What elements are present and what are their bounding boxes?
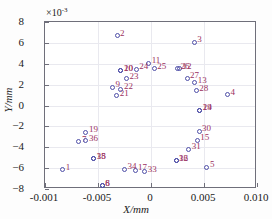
y-axis-tick-label: −6 bbox=[0, 162, 24, 173]
data-point bbox=[110, 85, 115, 90]
x-axis-tick bbox=[257, 183, 258, 187]
data-point-label: 31 bbox=[192, 142, 201, 151]
data-point bbox=[114, 93, 119, 98]
y-axis-tick-label: 4 bbox=[0, 58, 24, 69]
data-point-label: 30 bbox=[202, 124, 211, 133]
data-point bbox=[225, 92, 230, 97]
data-point bbox=[185, 76, 190, 81]
y-axis-exponent: ×10-3 bbox=[46, 5, 67, 18]
data-point-label: 25 bbox=[157, 62, 166, 71]
data-point-label: 23 bbox=[130, 72, 139, 81]
data-point bbox=[192, 40, 197, 45]
data-point-label: 22 bbox=[124, 82, 133, 91]
data-point-label: 35 bbox=[97, 152, 106, 161]
data-point-label: 29 bbox=[203, 103, 212, 112]
y-axis-tick-label: −8 bbox=[0, 183, 24, 194]
x-axis-title-text: X/mm bbox=[123, 203, 149, 215]
data-point bbox=[83, 138, 88, 143]
data-point bbox=[192, 80, 197, 85]
data-point-label: 1 bbox=[66, 163, 71, 172]
data-point bbox=[194, 88, 199, 93]
data-point bbox=[118, 68, 123, 73]
data-point-label: 8 bbox=[105, 179, 110, 188]
y-axis-exponent-base: ×10 bbox=[46, 7, 62, 18]
data-point bbox=[76, 139, 81, 144]
x-axis-tick-label: -0.005 bbox=[74, 192, 120, 203]
data-point-label: 4 bbox=[231, 88, 236, 97]
data-point bbox=[204, 165, 209, 170]
data-point-label: 26 bbox=[181, 62, 190, 71]
data-points-layer: 1234567891011121314151617181920212223242… bbox=[45, 22, 255, 187]
data-point bbox=[115, 33, 120, 38]
x-axis-title: X/mm bbox=[0, 203, 272, 215]
data-point-label: 32 bbox=[179, 154, 188, 163]
data-point bbox=[197, 108, 202, 113]
data-point-label: 2 bbox=[120, 29, 125, 38]
data-point bbox=[142, 169, 147, 174]
data-point-label: 34 bbox=[128, 162, 137, 171]
plot-area: 1234567891011121314151617181920212223242… bbox=[44, 21, 256, 188]
data-point bbox=[60, 167, 65, 172]
y-axis-tick-label: 8 bbox=[0, 16, 24, 27]
y-axis-tick bbox=[45, 189, 49, 190]
data-point-label: 28 bbox=[199, 84, 208, 93]
y-axis-title-text: Y/mm bbox=[2, 87, 14, 112]
data-point bbox=[197, 129, 202, 134]
data-point bbox=[122, 167, 127, 172]
data-point bbox=[100, 183, 105, 188]
x-axis-tick-label: 0.005 bbox=[180, 192, 226, 203]
data-point bbox=[152, 66, 157, 71]
y-axis-tick-label: −4 bbox=[0, 141, 24, 152]
data-point-label: 36 bbox=[89, 134, 98, 143]
y-axis-title: Y/mm bbox=[2, 70, 14, 130]
data-point-label: 3 bbox=[197, 35, 202, 44]
x-axis-tick-label: 0.010 bbox=[233, 192, 272, 203]
data-point bbox=[186, 147, 191, 152]
data-point bbox=[134, 67, 139, 72]
data-point-label: 5 bbox=[210, 160, 215, 169]
scatter-plot-figure: ×10-3 1234567891011121314151617181920212… bbox=[0, 0, 272, 219]
x-axis-tick-label: 0 bbox=[127, 192, 173, 203]
y-axis-tick-label: 6 bbox=[0, 37, 24, 48]
data-point-label: 15 bbox=[200, 133, 209, 142]
data-point bbox=[91, 156, 96, 161]
data-point-label: 33 bbox=[148, 165, 157, 174]
data-point-label: 27 bbox=[190, 71, 199, 80]
x-axis-tick-label: -0.001 bbox=[21, 192, 67, 203]
data-point bbox=[174, 158, 179, 163]
data-point bbox=[83, 130, 88, 135]
y-axis-exponent-power: -3 bbox=[62, 6, 68, 14]
data-point-label: 24 bbox=[139, 62, 148, 71]
